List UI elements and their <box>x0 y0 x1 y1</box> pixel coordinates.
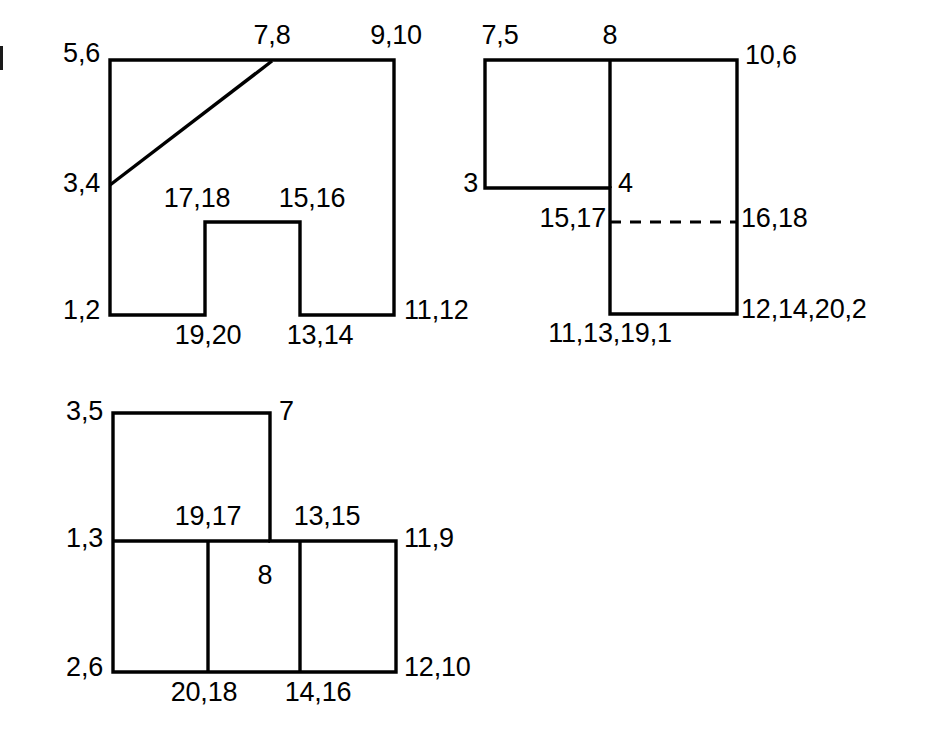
label-bottom-right: 12,14,20,2 <box>741 296 867 323</box>
label-notch-right: 15,16 <box>279 185 346 212</box>
label-bottom-left: 1,2 <box>63 297 100 324</box>
label-top-left: 7,5 <box>482 22 519 49</box>
figure-bottom: 3,5 7 1,3 19,17 13,15 11,9 8 2,6 20,18 1… <box>0 370 472 741</box>
label-bottom-mid-left: 20,18 <box>171 679 238 706</box>
label-bottom-mid-right: 13,14 <box>287 322 354 349</box>
figure-top-right: 7,5 8 10,6 3 4 15,17 16,18 11,13,19,1 12… <box>440 0 944 370</box>
figure-top-left: 5,6 7,8 9,10 3,4 17,18 15,16 1,2 19,20 1… <box>0 0 472 370</box>
figure-top-right-shape <box>440 0 944 370</box>
label-notch-left: 17,18 <box>164 185 231 212</box>
label-top-right: 10,6 <box>745 42 797 69</box>
diagram-canvas: 5,6 7,8 9,10 3,4 17,18 15,16 1,2 19,20 1… <box>0 0 944 741</box>
label-top-mid: 7,8 <box>254 22 291 49</box>
label-top-left: 3,5 <box>66 398 103 425</box>
label-mid-left: 1,3 <box>66 525 103 552</box>
label-mid-label-left: 19,17 <box>175 503 242 530</box>
label-left-mid: 3,4 <box>63 170 100 197</box>
label-mid-right: 11,9 <box>404 525 454 552</box>
label-mid-marker: 4 <box>618 170 633 197</box>
label-center: 8 <box>258 562 273 589</box>
label-bottom-right: 12,10 <box>404 654 471 681</box>
label-bottom-left: 2,6 <box>66 654 103 681</box>
label-top-right: 9,10 <box>370 22 422 49</box>
label-bottom-mid-left: 19,20 <box>175 322 242 349</box>
outline-path <box>110 60 394 315</box>
diagonal-line <box>110 61 272 185</box>
label-mid-label-right: 13,15 <box>294 503 361 530</box>
label-top-left: 5,6 <box>63 40 100 67</box>
label-bottom-mid-right: 14,16 <box>285 679 352 706</box>
label-top-mid: 8 <box>603 22 618 49</box>
label-left-lower: 3 <box>463 170 478 197</box>
label-dash-right: 16,18 <box>741 205 808 232</box>
label-bottom-left: 11,13,19,1 <box>548 320 672 347</box>
label-top-right: 7 <box>279 398 294 425</box>
label-dash-left: 15,17 <box>539 205 606 232</box>
